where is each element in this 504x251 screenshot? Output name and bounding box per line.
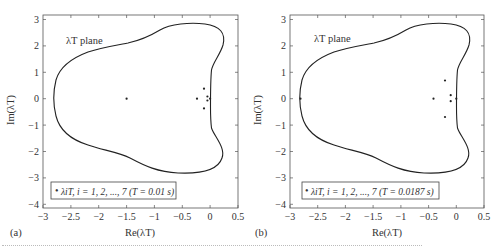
svg-text:−3: −3 <box>285 211 296 222</box>
svg-text:−1: −1 <box>396 211 407 222</box>
caption-strip <box>0 241 504 251</box>
svg-text:1: 1 <box>281 67 286 78</box>
svg-text:−2: −2 <box>28 146 39 157</box>
x-tick-labels: −3 −2.5 −2 −1.5 −1 −0.5 0 0.5 <box>285 211 491 222</box>
svg-text:0: 0 <box>34 93 39 104</box>
y-tick-labels: 3 2 1 0 −1 −2 −3 −4 <box>275 14 286 210</box>
y-tick-marks <box>290 20 484 205</box>
svg-text:−0.5: −0.5 <box>420 211 438 222</box>
chart-b-svg: −3 −2.5 −2 −1.5 −1 −0.5 0 0.5 3 2 1 0 −1… <box>247 0 504 240</box>
svg-text:−2.5: −2.5 <box>309 211 327 222</box>
svg-text:−0.5: −0.5 <box>173 211 191 222</box>
svg-text:−1.5: −1.5 <box>364 211 382 222</box>
legend-marker: • <box>55 185 59 196</box>
x-axis-label: Re(λT) <box>125 227 156 239</box>
x-tick-labels: −3 −2.5 −2 −1.5 −1 −0.5 0 0.5 <box>38 211 245 222</box>
plane-label: λT plane <box>66 35 103 46</box>
svg-text:−2: −2 <box>275 146 286 157</box>
svg-text:−2.5: −2.5 <box>62 211 80 222</box>
svg-text:0: 0 <box>208 211 213 222</box>
svg-text:1: 1 <box>34 67 39 78</box>
svg-text:0: 0 <box>454 211 459 222</box>
y-axis-label: Im(λT) <box>5 94 17 125</box>
svg-text:−3: −3 <box>275 172 286 183</box>
y-tick-labels: 3 2 1 0 −1 −2 −3 −4 <box>28 14 39 210</box>
svg-text:−3: −3 <box>38 211 49 222</box>
legend-text: λiT, i = 1, 2, ..., 7 (T = 0.01 s) <box>60 187 174 198</box>
plane-label: λT plane <box>314 33 351 44</box>
svg-text:−2: −2 <box>340 211 351 222</box>
caption-divider <box>2 245 422 247</box>
svg-text:0: 0 <box>281 93 286 104</box>
legend-marker: • <box>305 185 309 196</box>
svg-text:−4: −4 <box>28 199 39 210</box>
legend-text: λiT, i = 1, 2, ..., 7 (T = 0.0187 s) <box>310 187 434 198</box>
panel-label: (a) <box>10 227 22 239</box>
chart-a-svg: −3 −2.5 −2 −1.5 −1 −0.5 0 0.5 3 2 1 0 −1… <box>0 0 252 240</box>
svg-text:−1: −1 <box>149 211 160 222</box>
svg-text:−4: −4 <box>275 199 286 210</box>
svg-text:−1: −1 <box>28 120 39 131</box>
chart-panel-a: −3 −2.5 −2 −1.5 −1 −0.5 0 0.5 3 2 1 0 −1… <box>0 0 252 240</box>
y-tick-marks <box>43 20 238 205</box>
svg-text:2: 2 <box>34 40 39 51</box>
stability-boundary-curve <box>300 23 470 173</box>
svg-text:2: 2 <box>281 40 286 51</box>
eigenvalue-points <box>126 88 212 110</box>
svg-text:3: 3 <box>34 14 39 25</box>
svg-text:0.5: 0.5 <box>232 211 245 222</box>
eigenvalue-points <box>299 79 457 118</box>
svg-text:3: 3 <box>281 14 286 25</box>
svg-text:−1: −1 <box>275 120 286 131</box>
chart-panel-b: −3 −2.5 −2 −1.5 −1 −0.5 0 0.5 3 2 1 0 −1… <box>247 0 499 240</box>
x-axis-label: Re(λT) <box>372 227 403 239</box>
y-axis-label: Im(λT) <box>252 94 264 125</box>
svg-text:−2: −2 <box>93 211 104 222</box>
svg-text:0.5: 0.5 <box>478 211 491 222</box>
svg-text:−1.5: −1.5 <box>118 211 136 222</box>
panel-label: (b) <box>255 227 268 239</box>
svg-text:−3: −3 <box>28 172 39 183</box>
